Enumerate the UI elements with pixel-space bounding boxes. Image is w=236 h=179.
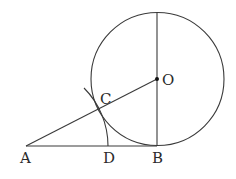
label-o: O [162,71,174,89]
label-a: A [19,149,31,167]
label-d: D [103,149,115,167]
geometry-diagram: A D B C O [0,0,236,179]
label-c: C [100,90,111,108]
point-o-dot [155,77,159,81]
label-b: B [152,149,163,167]
